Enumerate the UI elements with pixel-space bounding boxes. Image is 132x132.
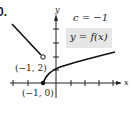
c-value-label: c = −1	[73, 12, 108, 23]
x-axis-label: x	[124, 78, 129, 87]
y-axis	[53, 14, 59, 98]
x-axis	[10, 80, 122, 86]
y-axis-label: y	[55, 5, 60, 14]
open-point-icon	[41, 55, 45, 59]
function-label: y = f(x)	[70, 31, 108, 42]
closed-point-label: (−1, 0)	[22, 88, 54, 98]
open-point-label: (−1, 2)	[15, 63, 47, 73]
closed-point-icon	[41, 81, 45, 85]
graph-figure: 0. y x c = −1 y = f(x)	[0, 0, 132, 132]
left-line-piece	[12, 24, 41, 55]
